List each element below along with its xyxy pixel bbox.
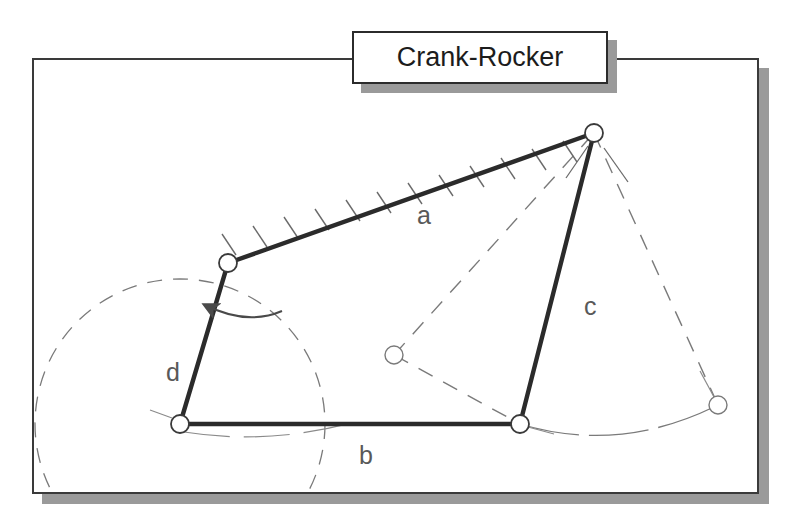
crank-rocker-kinematic-diagram: a b c d bbox=[32, 58, 759, 494]
rocker-swing-arc bbox=[520, 405, 718, 435]
joint-alt-rocker-tip bbox=[709, 396, 727, 414]
page-title: Crank-Rocker bbox=[397, 42, 564, 73]
link-label-c: c bbox=[584, 292, 597, 320]
joint-rocker-ground-pivot bbox=[511, 415, 529, 433]
link-label-d: d bbox=[166, 358, 180, 386]
diagram-page: a b c d Crank-Rocker bbox=[0, 0, 794, 532]
joint-crank-coupler-pin bbox=[219, 254, 237, 272]
top-pin-hatch-marks bbox=[566, 146, 628, 182]
link-d-crank bbox=[180, 263, 228, 424]
alt-crank-line bbox=[394, 355, 520, 424]
alt-rocker-tip-tick bbox=[700, 371, 714, 397]
link-a-coupler bbox=[228, 133, 594, 263]
alt-rocker-line bbox=[594, 133, 718, 405]
joint-crank-ground-pivot bbox=[171, 415, 189, 433]
joint-alt-crank-coupler-pin bbox=[385, 346, 403, 364]
link-c-rocker bbox=[520, 133, 594, 424]
ground-pivot-tick bbox=[150, 410, 172, 418]
joint-coupler-rocker-pin bbox=[585, 124, 603, 142]
link-label-b: b bbox=[359, 441, 373, 469]
link-label-a: a bbox=[417, 201, 431, 229]
rocker-ground-tick bbox=[528, 427, 554, 434]
title-block: Crank-Rocker bbox=[352, 31, 608, 84]
